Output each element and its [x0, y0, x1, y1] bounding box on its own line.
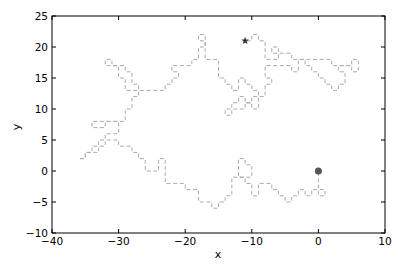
start-marker-icon: [315, 168, 322, 175]
x-tick-label: −10: [241, 235, 263, 247]
y-tick-label: 25: [35, 10, 48, 22]
chart-container: −40−30−20−10010 −10−50510152025 x y: [0, 0, 402, 274]
x-axis-label: x: [215, 248, 222, 261]
markers: [241, 37, 322, 175]
random-walk-chart: −40−30−20−10010 −10−50510152025 x y: [0, 0, 402, 274]
walk-path: [80, 35, 358, 209]
y-tick-label: 15: [35, 72, 48, 84]
y-tick-label: 5: [41, 134, 48, 146]
x-tick-label: 0: [315, 235, 322, 247]
y-axis-label: y: [10, 123, 23, 130]
x-tick-label: 10: [378, 235, 391, 247]
y-tick-label: −5: [33, 196, 48, 208]
y-tick-label: 20: [35, 41, 48, 53]
end-marker-star-icon: [241, 37, 249, 44]
y-tick-label: 0: [41, 165, 48, 177]
y-tick-label: −10: [26, 227, 48, 239]
x-tick-label: −30: [108, 235, 130, 247]
axes-frame: [52, 16, 385, 233]
x-axis-ticks: −40−30−20−10010: [41, 16, 392, 247]
y-tick-label: 10: [35, 103, 48, 115]
x-tick-label: −20: [174, 235, 196, 247]
